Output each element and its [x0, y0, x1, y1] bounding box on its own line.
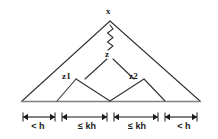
root-triangle-left-edge [22, 21, 110, 101]
node-label-z2: z2 [129, 72, 138, 81]
span-label-0: < h [14, 122, 62, 131]
tree-decomposition-figure: x z z1 z2 < h ≤ kh ≤ kh < h [0, 0, 218, 139]
span-arrow-1-head-left [62, 114, 67, 120]
root-triangle [22, 21, 200, 101]
span-arrow-0-head-right [50, 114, 55, 120]
span-arrows [23, 113, 197, 122]
subtree-triangle-z2 [110, 79, 165, 101]
figure-canvas [0, 0, 218, 139]
span-arrow-0-head-left [23, 114, 28, 120]
span-arrow-1-head-right [102, 114, 107, 120]
span-arrow-2-head-left [114, 114, 119, 120]
span-arrow-3-head-right [192, 114, 197, 120]
node-label-z1: z1 [62, 72, 71, 81]
root-triangle-right-edge [110, 21, 200, 101]
span-label-1: ≤ kh [62, 122, 112, 131]
span-label-2: ≤ kh [112, 122, 162, 131]
z-child-edges [85, 59, 134, 79]
z2-triangle-left-edge [110, 79, 144, 101]
edge-z-to-z1 [85, 59, 107, 79]
node-label-z: z [105, 50, 109, 59]
span-arrow-3-head-left [165, 114, 170, 120]
zigzag-path-x-to-z [108, 25, 114, 50]
z1-triangle-left-edge [57, 79, 76, 101]
span-label-3: < h [160, 122, 208, 131]
subtree-triangle-z1 [57, 79, 110, 101]
node-label-x: x [106, 7, 111, 16]
span-arrow-2-head-right [153, 114, 158, 120]
z2-triangle-right-edge [144, 79, 165, 101]
z1-triangle-right-edge [76, 79, 110, 101]
